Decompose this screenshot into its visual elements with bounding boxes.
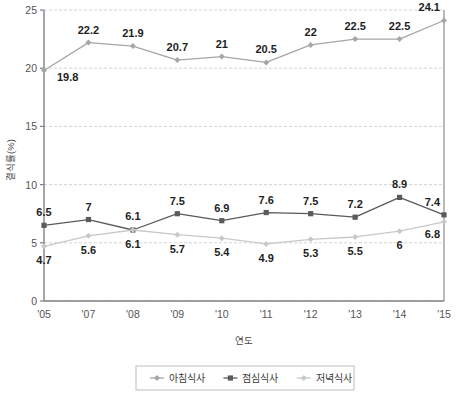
legend-label: 저녁식사 [316, 373, 352, 384]
data-point-marker [308, 211, 313, 216]
data-label: 6.5 [36, 206, 51, 218]
data-point-marker [353, 215, 358, 220]
data-label: 20.7 [167, 41, 188, 53]
x-tick-label: '05 [37, 308, 51, 320]
data-label: 5.5 [347, 245, 362, 257]
data-point-marker [441, 212, 446, 217]
y-tick-label: 10 [25, 179, 37, 191]
x-tick-label: '12 [304, 308, 318, 320]
chart-container: 0510152025 '05'07'08'09'10'11'12'13'14'1… [0, 0, 456, 403]
legend-label: 아침식사 [169, 373, 205, 384]
y-tick-label: 15 [25, 120, 37, 132]
data-label: 7.5 [170, 195, 185, 207]
data-point-marker [228, 375, 233, 380]
data-point-marker [86, 217, 91, 222]
data-label: 6.1 [125, 210, 140, 222]
x-tick-label: '08 [126, 308, 140, 320]
x-tick-label: '09 [170, 308, 184, 320]
x-tick-label: '15 [437, 308, 451, 320]
data-point-marker [219, 218, 224, 223]
x-tick-label: '10 [215, 308, 229, 320]
data-point-marker [175, 211, 180, 216]
data-label: 5.3 [303, 247, 318, 259]
data-point-marker [397, 195, 402, 200]
y-tick-label: 0 [31, 295, 37, 307]
data-label: 5.7 [170, 243, 185, 255]
chart-legend: 아침식사점심식사저녁식사 [136, 366, 354, 390]
data-label: 22.5 [344, 20, 365, 32]
y-axis-title: 결식률(%) [5, 139, 16, 181]
y-tick-label: 5 [31, 237, 37, 249]
x-tick-label: '13 [348, 308, 362, 320]
data-label: 7 [85, 201, 91, 213]
x-tick-label: '14 [393, 308, 407, 320]
data-point-marker [41, 223, 46, 228]
x-axis-title: 연도 [235, 335, 253, 346]
data-point-marker [264, 210, 269, 215]
data-label: 7.6 [259, 194, 274, 206]
y-tick-label: 20 [25, 62, 37, 74]
data-label: 7.2 [347, 198, 362, 210]
data-label: 5.4 [214, 246, 230, 258]
data-label: 22.5 [389, 20, 410, 32]
data-label: 21 [216, 38, 228, 50]
data-label: 6.9 [214, 202, 229, 214]
data-label: 4.9 [259, 252, 274, 264]
x-tick-label: '11 [260, 308, 273, 320]
data-label: 7.5 [303, 195, 318, 207]
data-label: 6.1 [125, 238, 140, 250]
line-chart: 0510152025 '05'07'08'09'10'11'12'13'14'1… [0, 0, 456, 403]
data-label: 5.6 [81, 244, 96, 256]
data-label: 22.2 [78, 24, 99, 36]
data-label: 7.4 [425, 196, 441, 208]
data-label: 4.7 [36, 254, 51, 266]
data-label: 8.9 [392, 178, 407, 190]
data-label: 6.8 [425, 228, 440, 240]
y-tick-label: 25 [25, 4, 37, 16]
data-label: 19.8 [57, 71, 78, 83]
legend-label: 점심식사 [242, 373, 278, 384]
x-tick-label: '07 [82, 308, 96, 320]
data-label: 21.9 [122, 27, 143, 39]
data-label: 24.1 [419, 1, 440, 13]
data-label: 6 [396, 239, 402, 251]
data-label: 22 [305, 26, 317, 38]
data-label: 20.5 [256, 43, 277, 55]
